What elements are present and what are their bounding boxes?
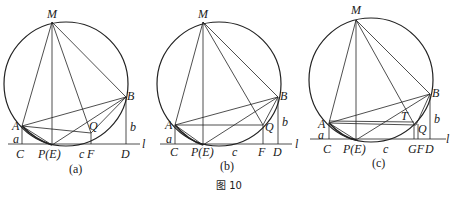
label-M-b: M [197,7,209,21]
label-F-b: F [257,145,266,159]
caption-a: (a) [69,162,82,176]
label-D-a: D [120,147,130,161]
label-A-a: A [11,119,20,133]
caption-b: (b) [220,159,234,173]
label-a-a: a [13,132,19,146]
label-l-a: l [142,137,146,151]
circle-c [309,18,433,142]
label-P-b: P(E) [190,145,214,159]
panel-a [4,22,140,146]
label-c-c: c [383,142,389,156]
label-a-b: a [166,132,172,146]
label-B-c: B [432,86,440,100]
label-A-b: A [164,118,173,132]
label-P-c: P(E) [342,142,366,156]
label-B-b: B [280,89,288,103]
label-c-b: c [232,145,238,159]
label-l-b: l [295,137,299,151]
label-b-a: b [130,120,136,134]
caption-c: (c) [372,156,385,170]
label-D-c: D [424,142,434,156]
label-C-a: C [16,147,25,161]
label-GF-c: GF [408,142,425,156]
label-a-c: a [318,128,324,142]
label-C-b: C [170,145,179,159]
label-b-c: b [434,112,440,126]
label-M-a: M [46,7,58,21]
label-Q-a: Q [89,119,98,133]
label-F-a: F [86,147,95,161]
figure-caption: 图 10 [216,180,242,191]
label-c-a: c [79,147,85,161]
label-P-a: P(E) [37,147,61,161]
circle-b [157,22,281,146]
label-B-a: B [127,89,135,103]
figure-10: M A B Q a b l C P(E) c F D (a) M A B Q a… [0,0,456,200]
label-C-c: C [323,142,332,156]
label-D-b: D [272,145,282,159]
label-Q-c: Q [418,122,427,136]
label-b-b: b [282,115,288,129]
label-l-c: l [446,132,450,146]
label-T-c: T [401,109,409,123]
label-M-c: M [350,3,362,17]
label-Q-b: Q [265,120,274,134]
